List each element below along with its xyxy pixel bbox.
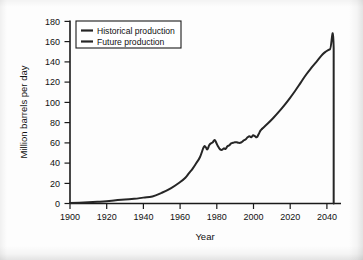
y-tick-label: 100: [45, 98, 60, 108]
y-axis-title: Million barrels per day: [18, 65, 29, 158]
x-axis-title: Year: [195, 231, 214, 242]
x-tick-label: 2040: [317, 212, 337, 222]
y-axis-ticks: [65, 21, 71, 203]
figure-card: 180 160 140 120 100 80 60 40 20 0 1900 1…: [0, 0, 363, 260]
x-tick-label: 1980: [207, 212, 227, 222]
x-tick-label: 1960: [170, 212, 190, 222]
x-tick-label: 1940: [133, 212, 153, 222]
x-tick-label: 1900: [60, 212, 80, 222]
y-tick-label: 40: [50, 158, 60, 168]
y-tick-label: 60: [50, 138, 60, 148]
x-tick-label: 2020: [280, 212, 300, 222]
y-tick-label: 0: [55, 199, 60, 209]
series-future-production: [262, 33, 333, 203]
series-historical-production: [70, 129, 262, 203]
x-axis-ticks: [70, 204, 327, 210]
y-tick-label: 160: [45, 37, 60, 47]
y-axis-tick-labels: 180 160 140 120 100 80 60 40 20 0: [45, 17, 60, 209]
y-tick-label: 80: [50, 118, 60, 128]
production-line-chart: 180 160 140 120 100 80 60 40 20 0 1900 1…: [0, 0, 363, 260]
x-tick-label: 1920: [97, 212, 117, 222]
y-tick-label: 120: [45, 77, 60, 87]
y-tick-label: 180: [45, 17, 60, 27]
x-tick-label: 2000: [243, 212, 263, 222]
chart-legend: Historical production Future production: [76, 21, 181, 48]
y-tick-label: 140: [45, 57, 60, 67]
y-tick-label: 20: [50, 179, 60, 189]
legend-label-future: Future production: [97, 37, 165, 47]
legend-label-historical: Historical production: [97, 26, 175, 36]
x-axis-tick-labels: 1900 1920 1940 1960 1980 2000 2020 2040: [60, 212, 337, 222]
